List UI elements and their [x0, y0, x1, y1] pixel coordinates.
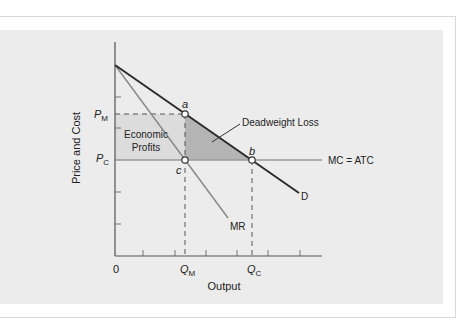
mr-label: MR: [230, 221, 246, 232]
x-axis-ticks: [143, 250, 300, 256]
economic-profits-label-line1: Economic: [124, 129, 168, 140]
monopoly-deadweight-diagram: a c b PM PC 0 QM QC Output Price and Cos…: [0, 0, 475, 325]
qm-label: QM: [180, 263, 196, 278]
point-b-marker: [249, 157, 255, 163]
demand-label: D: [301, 191, 308, 202]
pc-label: PC: [96, 152, 109, 167]
y-axis-title: Price and Cost: [70, 112, 82, 184]
point-c-marker: [182, 157, 188, 163]
origin-label: 0: [113, 263, 119, 275]
point-a-label: a: [182, 98, 188, 110]
point-c-label: c: [176, 164, 182, 176]
deadweight-loss-label: Deadweight Loss: [242, 117, 319, 128]
pm-label: PM: [94, 108, 108, 123]
x-axis-title: Output: [207, 280, 240, 292]
qc-label: QC: [247, 263, 262, 278]
mc-atc-label: MC = ATC: [328, 155, 374, 166]
deadweight-loss-leader: [212, 124, 240, 142]
economic-profits-label-line2: Profits: [132, 142, 160, 153]
point-b-label: b: [249, 145, 255, 157]
point-a-marker: [182, 111, 188, 117]
